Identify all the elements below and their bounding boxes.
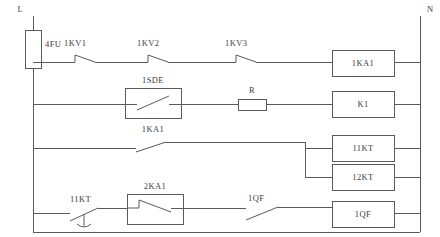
resistor-r-label: R <box>249 85 255 95</box>
contact-1kv3[interactable] <box>236 55 256 62</box>
contact-2ka1-blade[interactable] <box>127 200 171 212</box>
coil-1qf-label: 1QF <box>355 209 371 219</box>
contact-11kt-label: 11KT <box>70 194 92 204</box>
contact-1kv2[interactable] <box>148 55 168 62</box>
circuit-diagram-canvas: L 4FU N 1KV1 1KV2 <box>0 0 440 237</box>
switch-1sde-sub-label: 1KA1 <box>142 124 164 134</box>
coil-1ka1-label: 1KA1 <box>352 58 374 68</box>
left-rail-label: L <box>17 4 22 14</box>
coil-11kt-label: 11KT <box>352 143 374 153</box>
coil-k1-label: K1 <box>357 99 368 109</box>
rung-1-group: 1KV1 1KV2 1KV3 1KA1 <box>33 38 420 76</box>
contact-1kv2-label: 1KV2 <box>137 38 159 48</box>
left-rail-group: L 4FU <box>17 4 61 232</box>
contact-1qf-label: 1QF <box>248 193 264 203</box>
contact-1qf[interactable] <box>246 207 278 220</box>
right-rail-label: N <box>427 4 433 14</box>
rung-3-group: 11KT 12KT <box>33 135 420 190</box>
rung-4-group: 11KT 2KA1 1QF 1QF <box>33 181 420 227</box>
contact-rung3-no[interactable] <box>136 142 166 152</box>
circuit-diagram: L 4FU N 1KV1 1KV2 <box>0 0 440 237</box>
contact-1kv1[interactable] <box>75 55 95 62</box>
contact-1kv3-label: 1KV3 <box>225 38 247 48</box>
right-rail-group: N <box>420 4 433 232</box>
switch-1sde-blade[interactable] <box>137 96 169 110</box>
switch-1sde-label: 1SDE <box>142 75 164 85</box>
coil-12kt-label: 12KT <box>352 172 374 182</box>
rung-2-group: 1SDE 1KA1 R K1 <box>33 75 420 134</box>
contact-2ka1-box[interactable] <box>127 194 183 224</box>
contact-1kv1-label: 1KV1 <box>64 38 86 48</box>
contact-2ka1-label: 2KA1 <box>144 181 166 191</box>
fuse-4fu-label: 4FU <box>45 39 61 49</box>
resistor-r-body[interactable] <box>238 99 266 110</box>
